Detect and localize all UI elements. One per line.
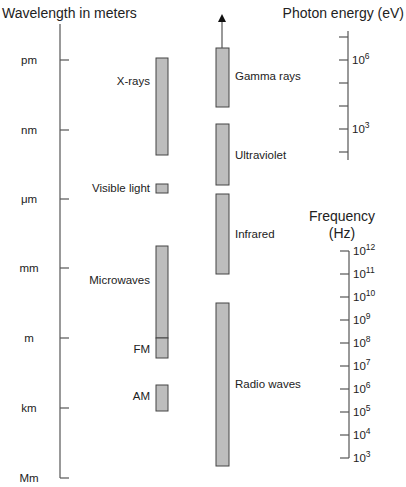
frequency-tick-label: 108 — [353, 334, 371, 349]
band-microwaves: Microwaves — [89, 246, 168, 338]
gamma-rays-label: Gamma rays — [235, 70, 301, 82]
frequency-tick-label: 107 — [353, 357, 371, 372]
wavelength-tick-label: μm — [21, 193, 37, 205]
band-am: AM — [133, 385, 168, 411]
wavelength-tick-label: pm — [21, 54, 37, 66]
ultraviolet-bar — [216, 124, 229, 185]
wavelength-tick-label: km — [21, 402, 36, 414]
infrared-bar — [216, 194, 229, 274]
frequency-tick-label: 1012 — [353, 242, 376, 257]
band-fm: FM — [133, 338, 168, 358]
right-bands: Gamma raysUltravioletInfraredRadio waves — [216, 48, 301, 466]
photon-energy-axis-title: Photon energy (eV) — [283, 5, 404, 21]
photon-energy-axis: Photon energy (eV) 106103 — [283, 5, 404, 160]
wavelength-axis-title: Wavelength in meters — [2, 5, 137, 21]
band-infrared: Infrared — [216, 194, 275, 274]
microwaves-label: Microwaves — [89, 274, 150, 286]
radio-waves-bar — [216, 303, 229, 466]
wavelength-tick-label: m — [24, 332, 34, 344]
frequency-tick-label: 1011 — [353, 265, 375, 280]
frequency-tick-label: 109 — [353, 311, 371, 326]
microwaves-bar — [156, 246, 168, 338]
radio-waves-label: Radio waves — [235, 378, 301, 390]
frequency-tick-label: 1010 — [353, 288, 376, 303]
x-rays-bar — [156, 58, 168, 155]
wavelength-tick-label: Mm — [19, 472, 38, 484]
wavelength-ticks: pmnmμmmmmkmMm — [19, 54, 69, 484]
frequency-axis-title: Frequency — [309, 208, 375, 224]
visible-light-bar — [156, 184, 168, 193]
am-label: AM — [133, 390, 150, 402]
band-gamma-rays: Gamma rays — [216, 48, 301, 107]
am-bar — [156, 385, 168, 411]
em-spectrum-diagram: Wavelength in meters pmnmμmmmmkmMm X-ray… — [0, 0, 406, 487]
visible-light-label: Visible light — [92, 182, 151, 194]
band-ultraviolet: Ultraviolet — [216, 124, 287, 185]
fm-label: FM — [133, 343, 150, 355]
infrared-label: Infrared — [235, 228, 275, 240]
gamma-rays-bar — [216, 48, 229, 107]
frequency-axis: Frequency (Hz) 1012101110101091081071061… — [309, 208, 376, 464]
wavelength-tick-label: nm — [21, 124, 37, 136]
frequency-tick-label: 105 — [353, 403, 371, 418]
frequency-tick-label: 103 — [353, 449, 371, 464]
gamma-arrow-icon — [218, 14, 226, 48]
frequency-axis-unit: (Hz) — [329, 225, 355, 241]
band-visible-light: Visible light — [92, 182, 168, 194]
band-radio-waves: Radio waves — [216, 303, 301, 466]
photon-energy-ticks: 106103 — [339, 37, 370, 152]
frequency-tick-label: 106 — [353, 380, 371, 395]
photon-energy-tick-label: 106 — [352, 51, 370, 66]
ultraviolet-label: Ultraviolet — [235, 149, 287, 161]
left-bands: X-raysVisible lightMicrowavesFMAM — [89, 58, 168, 411]
frequency-tick-label: 104 — [353, 426, 371, 441]
photon-energy-tick-label: 103 — [352, 120, 370, 135]
frequency-ticks: 101210111010109108107106105104103 — [340, 242, 376, 464]
wavelength-tick-label: mm — [19, 262, 38, 274]
fm-bar — [156, 338, 168, 358]
x-rays-label: X-rays — [117, 75, 150, 87]
band-x-rays: X-rays — [117, 58, 168, 155]
